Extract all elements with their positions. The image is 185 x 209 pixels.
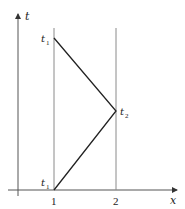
- t-axis-label: t: [25, 10, 30, 23]
- spacetime-diagram: t x 1 2 t 1 t 2 t 1: [0, 0, 185, 209]
- x-axis-label: x: [170, 194, 177, 207]
- label-t1-top: t 1: [41, 33, 50, 47]
- label-t1-bottom: t 1: [41, 177, 50, 191]
- worldline-path: [54, 38, 116, 190]
- x-tick-2: 2: [113, 195, 119, 207]
- svg-text:1: 1: [46, 183, 50, 191]
- label-t2: t 2: [120, 106, 129, 120]
- svg-text:2: 2: [125, 112, 129, 120]
- svg-text:1: 1: [46, 39, 50, 47]
- x-tick-1: 1: [51, 195, 57, 207]
